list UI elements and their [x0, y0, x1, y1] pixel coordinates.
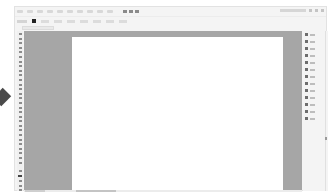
eyedropper-tool-icon[interactable]	[19, 129, 22, 131]
dock-item-label	[310, 34, 315, 36]
document-tab[interactable]	[22, 26, 54, 30]
appearance-icon	[305, 103, 308, 106]
symbols-icon	[305, 75, 308, 78]
window-area	[280, 9, 324, 12]
graph-tool-icon[interactable]	[19, 143, 22, 145]
dock-item[interactable]	[305, 68, 315, 71]
fill-stroke-icon[interactable]	[18, 175, 22, 178]
artboards-icon	[305, 117, 308, 120]
opacity-field[interactable]	[80, 20, 88, 23]
slice-tool-icon[interactable]	[19, 152, 22, 154]
arrange-icon[interactable]	[129, 10, 133, 13]
edit-toolbar-icon[interactable]	[19, 170, 22, 172]
menu-item[interactable]	[37, 10, 43, 13]
shaper-tool-icon[interactable]	[19, 79, 22, 81]
dock-item[interactable]	[305, 110, 315, 113]
draw-mode-icon[interactable]	[19, 185, 22, 187]
gradient-tool-icon[interactable]	[19, 125, 22, 127]
mesh-tool-icon[interactable]	[19, 120, 22, 122]
shape-builder-tool-icon[interactable]	[19, 111, 22, 113]
workspace-icon[interactable]	[123, 10, 127, 13]
dock-collapse-handle[interactable]	[325, 137, 327, 140]
perspective-grid-tool-icon[interactable]	[19, 116, 22, 118]
eraser-tool-icon[interactable]	[19, 88, 22, 90]
dock-item-label	[310, 69, 315, 71]
stroke-weight-field[interactable]	[54, 20, 62, 23]
dock-item[interactable]	[305, 54, 315, 57]
dock-item[interactable]	[305, 103, 315, 106]
pointer-arrow-icon	[0, 88, 11, 106]
pen-tool-icon[interactable]	[19, 51, 22, 53]
menu-item[interactable]	[77, 10, 83, 13]
share-icon[interactable]	[135, 10, 139, 13]
dock-item-label	[310, 90, 315, 92]
rectangle-tool-icon[interactable]	[19, 70, 22, 72]
screen-mode-icon[interactable]	[19, 189, 22, 191]
menu-item[interactable]	[107, 10, 113, 13]
document-setup-button[interactable]	[106, 20, 114, 23]
properties-icon	[305, 33, 308, 36]
line-tool-icon[interactable]	[19, 65, 22, 67]
direct-selection-tool-icon[interactable]	[19, 38, 22, 40]
preferences-button[interactable]	[119, 20, 127, 23]
status-zoom-field[interactable]	[25, 190, 45, 192]
artboard[interactable]	[72, 37, 283, 190]
dock-item-label	[310, 41, 315, 43]
menu-item[interactable]	[27, 10, 33, 13]
tools-panel	[17, 31, 23, 191]
menu-item[interactable]	[47, 10, 53, 13]
curvature-tool-icon[interactable]	[19, 56, 22, 58]
horizontal-scrollbar[interactable]	[24, 190, 302, 192]
style-picker[interactable]	[93, 20, 101, 23]
libraries-icon	[305, 47, 308, 50]
magic-wand-tool-icon[interactable]	[19, 42, 22, 44]
menu-item[interactable]	[97, 10, 103, 13]
dock-item[interactable]	[305, 117, 315, 120]
free-transform-tool-icon[interactable]	[19, 107, 22, 109]
dock-item[interactable]	[305, 96, 315, 99]
scale-tool-icon[interactable]	[19, 97, 22, 99]
menu-item[interactable]	[57, 10, 63, 13]
zoom-tool-icon[interactable]	[19, 162, 22, 164]
selection-tool-icon[interactable]	[19, 33, 22, 35]
maximize-icon[interactable]	[315, 9, 318, 12]
menu-item[interactable]	[17, 10, 23, 13]
menu-item[interactable]	[67, 10, 73, 13]
gradient-icon	[305, 89, 308, 92]
stroke-icon	[305, 82, 308, 85]
pencil-tool-icon[interactable]	[19, 84, 22, 86]
symbol-sprayer-tool-icon[interactable]	[19, 139, 22, 141]
paintbrush-tool-icon[interactable]	[19, 74, 22, 76]
stroke-field[interactable]	[41, 20, 49, 23]
dock-item-label	[310, 48, 315, 50]
menu-item[interactable]	[87, 10, 93, 13]
hand-tool-icon[interactable]	[19, 157, 22, 159]
width-tool-icon[interactable]	[19, 102, 22, 104]
dock-divider	[325, 31, 326, 191]
dock-item-label	[310, 104, 315, 106]
minimize-icon[interactable]	[309, 9, 312, 12]
dock-item[interactable]	[305, 33, 315, 36]
color-icon	[305, 54, 308, 57]
fill-swatch[interactable]	[32, 19, 36, 23]
swap-colors-icon[interactable]	[19, 180, 22, 182]
type-tool-icon[interactable]	[19, 61, 22, 63]
dock-item-label	[310, 83, 315, 85]
blend-tool-icon[interactable]	[19, 134, 22, 136]
close-icon[interactable]	[321, 9, 324, 12]
rotate-tool-icon[interactable]	[19, 93, 22, 95]
dock-item[interactable]	[305, 40, 315, 43]
artboard-tool-icon[interactable]	[19, 148, 22, 150]
dock-item[interactable]	[305, 82, 315, 85]
window-label	[280, 9, 306, 12]
dock-item[interactable]	[305, 61, 315, 64]
screen	[0, 0, 332, 194]
style-field[interactable]	[67, 20, 75, 23]
lasso-tool-icon[interactable]	[19, 47, 22, 49]
scrollbar-thumb[interactable]	[76, 190, 116, 192]
dock-item-label	[310, 118, 315, 120]
dock-item[interactable]	[305, 47, 315, 50]
dock-item[interactable]	[305, 89, 315, 92]
dock-item[interactable]	[305, 75, 315, 78]
canvas-pasteboard[interactable]	[24, 31, 302, 190]
